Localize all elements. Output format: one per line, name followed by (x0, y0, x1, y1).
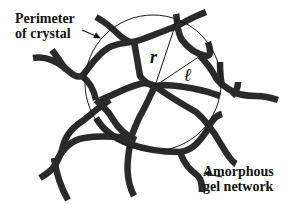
fiber (54, 158, 68, 200)
perimeter-label-line1: Perimeter (15, 11, 75, 26)
fiber (130, 86, 155, 140)
network-label-line2: gel network (203, 179, 274, 194)
radius-variable: r (150, 48, 157, 66)
perimeter-label: Perimeter of crystal (15, 11, 75, 41)
length-line (155, 56, 200, 86)
fiber (128, 144, 135, 196)
network-label-line1: Amorphous (203, 164, 274, 179)
fiber (180, 152, 202, 192)
length-variable: ℓ (184, 66, 192, 84)
network-label: Amorphous gel network (203, 164, 274, 194)
fiber (82, 76, 96, 100)
perimeter-arrow (82, 30, 101, 39)
perimeter-label-line2: of crystal (15, 26, 75, 41)
